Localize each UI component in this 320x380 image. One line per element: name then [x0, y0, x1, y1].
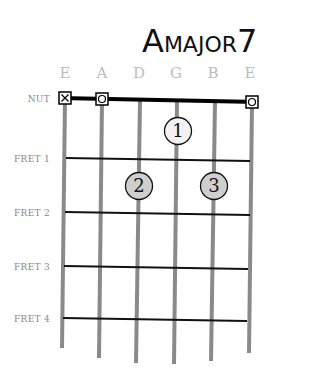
string-d [136, 100, 140, 363]
muted-marker-low-e [59, 92, 71, 104]
fret-line-4 [63, 318, 247, 321]
nut [60, 98, 258, 102]
finger-3-number: 3 [204, 175, 224, 196]
string-b [211, 102, 215, 361]
fret-line-1 [66, 158, 250, 161]
open-marker-a [96, 93, 108, 105]
strings [62, 99, 252, 364]
string-high-e [249, 103, 252, 353]
fret-line-3 [64, 266, 248, 269]
fret-line-2 [65, 212, 250, 215]
open-marker-high-e [246, 96, 258, 108]
finger-2-number: 2 [129, 175, 149, 196]
finger-1-number: 1 [168, 120, 188, 141]
string-low-e [62, 99, 65, 348]
